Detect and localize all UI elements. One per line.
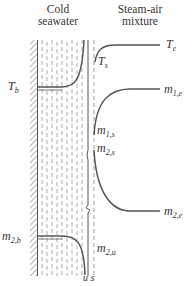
m2-profile-water [38,236,85,275]
header-left-line2: seawater [28,15,88,27]
label-m1s: m1,s [97,124,115,141]
label-m2s: m2,s [97,142,115,159]
label-m2b: m2,b [2,230,21,247]
cooled-wall-hatching [30,40,37,276]
label-Ts: Ts [98,55,108,72]
interface-line-u [86,40,90,276]
label-m1e: m1,e [164,83,182,100]
label-Te: Te [166,38,176,55]
label-Tb: Tb [8,80,19,97]
header-right-line2: mixture [105,15,175,27]
header-left-line1: Cold [28,3,88,15]
label-u-s: u s [83,272,94,284]
label-m2e: m2,e [164,205,182,222]
condensation-profile-diagram: Cold seawater Steam-air mixture Te Ts Tb… [0,0,194,286]
header-cold-seawater: Cold seawater [28,3,88,27]
header-right-line1: Steam-air [105,3,175,15]
header-steam-air-mixture: Steam-air mixture [105,3,175,27]
m2-profile [94,150,160,211]
label-m2u: m2,u [97,242,116,259]
